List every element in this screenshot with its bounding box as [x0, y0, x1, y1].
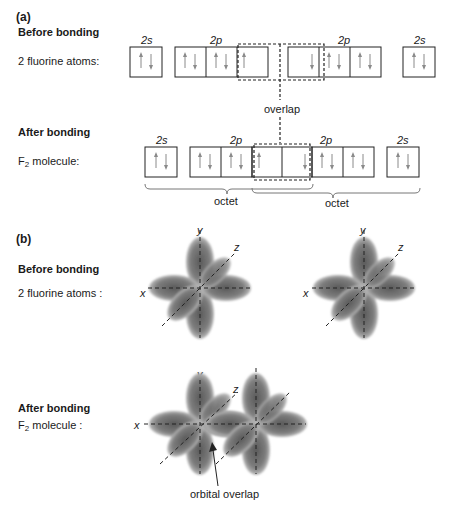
after-bonding-orbital-boxes [145, 147, 419, 177]
f2-molecule-orbitals [144, 368, 307, 475]
fluorine-atom-orbitals-right [312, 230, 416, 339]
fluorine-atom-orbitals-left [148, 230, 252, 339]
overlap-dashed-box [238, 44, 324, 143]
octet-braces [145, 184, 420, 198]
before-bonding-orbital-boxes [130, 47, 435, 77]
orbital-diagram-graphics [0, 0, 458, 512]
before-bonding-electron-arrows [139, 52, 426, 70]
